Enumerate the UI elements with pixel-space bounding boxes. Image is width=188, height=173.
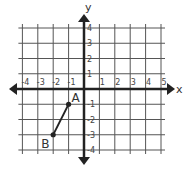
x-tick-label: -4: [21, 78, 29, 87]
y-tick-label: 3: [87, 39, 92, 48]
y-tick-label: -2: [87, 116, 95, 125]
x-tick-label: 1: [100, 78, 105, 87]
coordinate-plane: -4-3-2-1123454321-1-2-3-4 AB x y: [0, 0, 188, 173]
arrow-right-icon: [167, 83, 175, 95]
x-tick-label: 5: [161, 78, 166, 87]
y-tick-label: 2: [87, 55, 92, 64]
axes: [9, 14, 175, 165]
point-a: [66, 102, 71, 107]
point-label-a: A: [72, 91, 81, 105]
y-tick-label: -3: [87, 131, 95, 140]
x-axis-label: x: [176, 83, 183, 96]
y-tick-label: 4: [87, 24, 92, 33]
segment-ab: AB: [41, 91, 80, 151]
arrow-left-icon: [9, 83, 17, 95]
x-tick-label: -1: [68, 78, 76, 87]
y-tick-label: 1: [87, 70, 92, 79]
y-axis-label: y: [85, 1, 92, 14]
x-tick-label: -2: [52, 78, 60, 87]
arrow-up-icon: [78, 14, 90, 22]
y-tick-label: -4: [87, 146, 95, 155]
x-tick-label: -3: [37, 78, 45, 87]
point-b: [51, 132, 56, 137]
x-tick-label: 4: [146, 78, 151, 87]
arrow-down-icon: [78, 157, 90, 165]
x-tick-label: 2: [115, 78, 120, 87]
x-tick-label: 3: [131, 78, 136, 87]
point-label-b: B: [41, 137, 49, 151]
y-tick-label: -1: [87, 100, 95, 109]
